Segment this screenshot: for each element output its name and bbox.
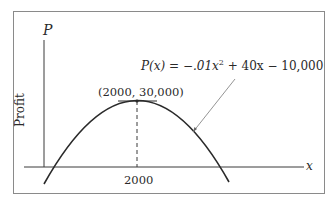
peak-annotation: (2000, 30,000) <box>98 87 184 99</box>
y-axis-title: Profit <box>14 93 26 127</box>
equation-rhs: + 40x − 10,000 <box>224 59 323 73</box>
y-axis-label: P <box>43 23 52 37</box>
equation-lhs: P(x) = −.01x <box>141 59 219 73</box>
frame-border <box>14 12 325 194</box>
profit-curve <box>44 100 229 184</box>
peak-point <box>135 99 138 102</box>
x-axis-label: x <box>306 160 313 172</box>
x-tick-2000: 2000 <box>124 175 153 187</box>
equation-label: P(x) = −.01x2 + 40x − 10,000 <box>141 59 323 72</box>
leader-line <box>193 79 235 132</box>
